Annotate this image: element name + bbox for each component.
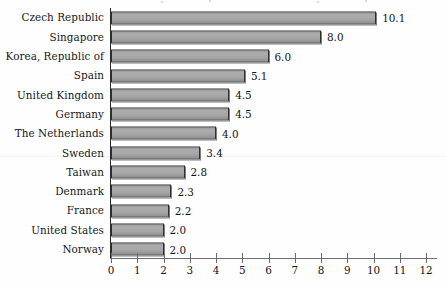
plot-area: Czech Republic10.1Singapore8.0Korea, Rep… (0, 0, 447, 288)
x-tick-label: 10 (361, 265, 387, 275)
x-tick-label: 3 (177, 265, 203, 275)
x-tick-mark (426, 253, 427, 263)
x-tick-label: 11 (387, 265, 413, 275)
x-tick-mark (400, 253, 401, 263)
x-axis-ticks: 0123456789101112 (0, 0, 447, 288)
x-tick-label: 4 (203, 265, 229, 275)
x-tick-mark (111, 253, 112, 263)
x-tick-label: 6 (256, 265, 282, 275)
x-tick-label: 5 (229, 265, 255, 275)
x-tick-label: 9 (334, 265, 360, 275)
x-tick-mark (216, 253, 217, 263)
x-tick-mark (164, 253, 165, 263)
x-tick-label: 12 (413, 265, 439, 275)
x-tick-label: 1 (124, 265, 150, 275)
x-tick-mark (137, 253, 138, 263)
x-tick-mark (295, 253, 296, 263)
x-tick-mark (190, 253, 191, 263)
bar-chart-figure: Czech Republic10.1Singapore8.0Korea, Rep… (0, 0, 447, 288)
x-tick-mark (242, 253, 243, 263)
x-tick-mark (374, 253, 375, 263)
x-tick-mark (347, 253, 348, 263)
x-tick-label: 2 (151, 265, 177, 275)
x-tick-label: 8 (308, 265, 334, 275)
x-tick-label: 0 (98, 265, 124, 275)
x-tick-label: 7 (282, 265, 308, 275)
x-tick-mark (321, 253, 322, 263)
x-tick-mark (269, 253, 270, 263)
